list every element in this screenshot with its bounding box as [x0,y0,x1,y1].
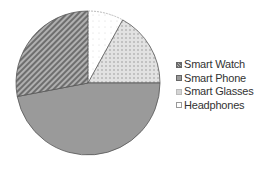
pie-slice-smart-phone [17,83,160,155]
swatch-icon [176,75,182,81]
swatch-icon [176,102,182,108]
legend-item-smart-phone: Smart Phone [176,72,254,86]
legend: Smart Watch Smart Phone Smart Glasses He… [176,58,254,112]
swatch-icon [176,62,182,68]
legend-label: Headphones [184,99,244,112]
legend-label: Smart Watch [184,58,245,71]
swatch-icon [176,89,182,95]
legend-item-smart-watch: Smart Watch [176,58,254,72]
pie-slice-smart-watch [16,11,88,96]
legend-item-headphones: Headphones [176,99,254,113]
legend-label: Smart Phone [184,72,246,85]
legend-item-smart-glasses: Smart Glasses [176,85,254,99]
legend-label: Smart Glasses [184,85,254,98]
